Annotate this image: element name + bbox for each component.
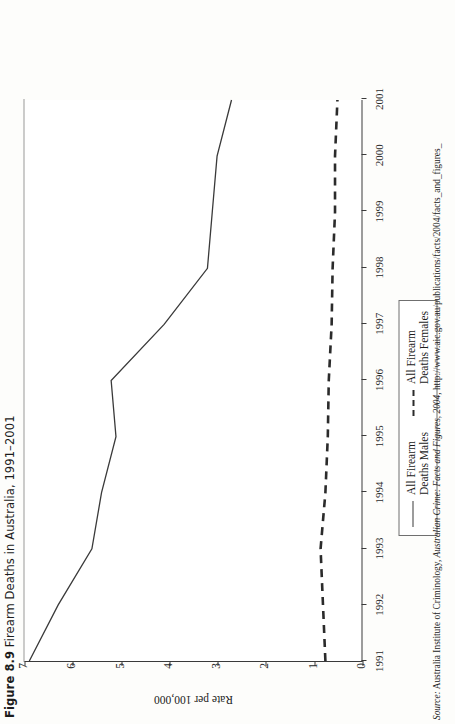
legend-label-males-line1: All Firearm [404,441,416,495]
x-axis-tick [361,548,366,549]
x-axis-tick [361,154,366,155]
x-axis-label-1998: 1998 [372,248,384,288]
x-axis-label-1993: 1993 [372,529,384,569]
legend-item-males: All Firearm Deaths Males [404,432,430,527]
source-label: Source: [431,691,441,720]
y-axis-label-7: 7 [16,663,28,675]
source-publication-title: Australian Crime: Facts and Figures, 200… [431,395,441,558]
legend-label-females-line2: Deaths Females [417,311,429,384]
x-axis-label-1991: 1991 [372,641,384,681]
x-axis-tick [361,435,366,436]
y-axis-label-1: 1 [306,663,318,675]
x-axis-tick [361,604,366,605]
x-axis-tick [361,98,366,99]
y-axis-label-0: 0 [354,663,366,675]
chart-series-layer [24,100,361,661]
x-axis-tick [361,210,366,211]
x-axis-tick [361,267,366,268]
x-axis-tick [361,323,366,324]
series-line-females [320,100,337,661]
figure-number: Figure 8.9 [2,651,16,718]
legend-label-females-line1: All Firearm [404,330,416,384]
y-axis-label-2: 2 [257,663,269,675]
x-axis-label-1996: 1996 [372,360,384,400]
legend-label-males-line2: Deaths Males [417,432,429,495]
series-line-males [29,100,231,661]
x-axis-label-1999: 1999 [372,191,384,231]
source-note: Source: Australia Institute of Criminolo… [430,4,442,720]
figure-caption: Figure 8.9 Firearm Deaths in Australia, … [2,415,16,718]
figure-caption-text: Firearm Deaths in Australia, 1991–2001 [2,415,16,647]
chart-plot-area: 1991199219931994199519961997199819992000… [24,100,362,662]
source-text-2: , http://www.aic.gov.au/publications/fac… [431,144,441,395]
y-axis-title-text: Rate per 100,000 [154,694,233,706]
x-axis-tick [361,379,366,380]
legend-label-females: All Firearm Deaths Females [404,311,430,384]
x-axis-label-1997: 1997 [372,304,384,344]
y-axis-label-4: 4 [161,663,173,675]
x-axis-label-2000: 2000 [372,135,384,175]
x-axis-label-1994: 1994 [372,472,384,512]
legend-label-males: All Firearm Deaths Males [404,432,430,495]
legend-swatch-solid-icon [406,501,419,527]
x-axis-label-1995: 1995 [372,416,384,456]
y-axis-title: Rate per 100,000 [24,692,362,708]
legend-item-females: All Firearm Deaths Females [404,311,430,416]
y-axis-label-6: 6 [64,663,76,675]
y-axis-label-3: 3 [209,663,221,675]
x-axis-label-1992: 1992 [372,585,384,625]
legend-swatch-dashed-icon [406,390,419,416]
source-text-1: Australia Institute of Criminology, [431,557,441,691]
y-axis-label-5: 5 [113,663,125,675]
x-axis-label-2001: 2001 [372,79,384,119]
figure-page: Figure 8.9 Firearm Deaths in Australia, … [0,0,455,724]
x-axis-tick [361,491,366,492]
